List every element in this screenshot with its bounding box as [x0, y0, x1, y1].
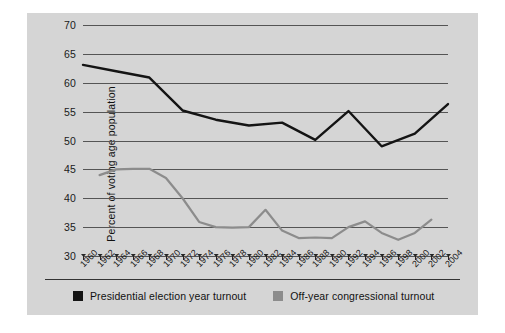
y-tick-label: 60 [64, 77, 76, 89]
chart-legend: Presidential election year turnout Off-y… [73, 290, 434, 302]
y-tick-label: 30 [64, 250, 76, 262]
y-tick-label: 35 [64, 221, 76, 233]
legend-item-offyear: Off-year congressional turnout [273, 290, 434, 302]
y-tick-label: 55 [64, 106, 76, 118]
y-tick-label: 40 [64, 192, 76, 204]
legend-label-offyear: Off-year congressional turnout [290, 290, 434, 302]
legend-item-presidential: Presidential election year turnout [73, 290, 246, 302]
y-tick-label: 70 [64, 19, 76, 31]
plot-area: 706560555045403530 196019621964196619681… [83, 25, 448, 256]
chart-figure: Percent of voting age population 7065605… [27, 13, 478, 315]
legend-label-presidential: Presidential election year turnout [90, 290, 246, 302]
legend-swatch-presidential [73, 291, 83, 301]
legend-divider [45, 279, 460, 280]
y-tick-label: 50 [64, 135, 76, 147]
legend-swatch-offyear [273, 291, 283, 301]
series-line [100, 169, 432, 240]
y-tick-label: 65 [64, 48, 76, 60]
y-tick-label: 45 [64, 163, 76, 175]
series-line [83, 65, 448, 146]
series-lines [83, 25, 448, 256]
